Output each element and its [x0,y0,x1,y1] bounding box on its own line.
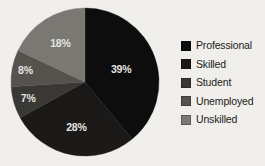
pie-svg: 39%28%7%8%18% [0,0,178,166]
legend-item[interactable]: Unskilled [181,113,265,126]
pie-slice-value-label: 39% [111,63,132,75]
legend-item-label: Skilled [196,59,226,70]
legend-swatch-icon [181,115,191,125]
pie-slice-value-label: 28% [66,121,87,133]
legend-item[interactable]: Unemployed [181,95,265,108]
legend-swatch-icon [181,41,191,51]
pie-plot-area: 39%28%7%8%18% [0,0,178,166]
pie-slice-value-label: 8% [18,64,34,76]
pie-slice-value-label: 7% [21,92,37,104]
legend-item-label: Unemployed [196,96,253,107]
pie-slice-value-label: 18% [50,37,71,49]
legend: ProfessionalSkilledStudentUnemployedUnsk… [181,39,265,126]
legend-item[interactable]: Professional [181,39,265,52]
legend-swatch-icon [181,59,191,69]
legend-item-label: Student [196,77,231,88]
pie-chart-figure: 39%28%7%8%18% ProfessionalSkilledStudent… [0,0,265,166]
legend-item[interactable]: Student [181,76,265,89]
legend-item-label: Unskilled [196,114,237,125]
legend-swatch-icon [181,78,191,88]
pie-slices-group [11,8,159,156]
legend-swatch-icon [181,96,191,106]
legend-item[interactable]: Skilled [181,58,265,71]
legend-item-label: Professional [196,40,252,51]
